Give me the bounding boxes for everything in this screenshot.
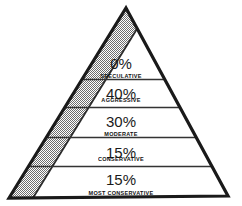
tier-label-aggressive: AGGRESSIVE <box>10 97 233 103</box>
tier-percent-speculative: 0% <box>0 56 242 71</box>
tier-aggressive[interactable]: 40% AGGRESSIVE <box>0 86 242 103</box>
tier-label-moderate: MODERATE <box>10 131 233 137</box>
tier-moderate[interactable]: 30% MODERATE <box>0 114 242 137</box>
tier-label-conservative: CONSERVATIVE <box>10 156 233 162</box>
tier-most-conservative[interactable]: 15% MOST CONSERVATIVE <box>0 172 242 196</box>
tier-conservative[interactable]: 15% CONSERVATIVE <box>0 145 242 162</box>
tier-percent-most-conservative: 15% <box>0 172 242 187</box>
tier-percent-moderate: 30% <box>0 114 242 129</box>
tier-label-speculative: SPECULATIVE <box>10 73 233 79</box>
tier-label-most-conservative: MOST CONSERVATIVE <box>10 190 233 196</box>
investment-risk-pyramid: 0% SPECULATIVE 40% AGGRESSIVE 30% MODERA… <box>0 0 242 206</box>
tier-speculative[interactable]: 0% SPECULATIVE <box>0 56 242 79</box>
